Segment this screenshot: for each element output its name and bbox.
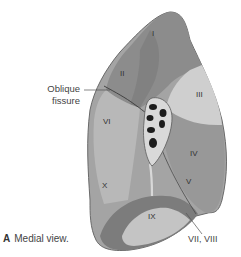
- hilum-vessel: [149, 138, 157, 148]
- hilum-vessel: [159, 120, 165, 128]
- segment-label-vi: VI: [103, 118, 111, 126]
- callout-line2: fissure: [40, 95, 80, 107]
- caption-letter: A: [3, 233, 10, 244]
- hilum-vessel: [147, 127, 155, 133]
- segment-label-iv: IV: [190, 150, 198, 158]
- hilum-vessel: [160, 109, 167, 117]
- segment-label-ii: II: [120, 70, 124, 78]
- segment-label-ix: IX: [148, 213, 156, 221]
- hilum-vessel: [147, 115, 154, 121]
- lung-medial-view-figure: I II III VI IV V X IX Oblique fissure VI…: [0, 0, 241, 257]
- lung-illustration: [0, 0, 241, 257]
- segment-label-x: X: [102, 182, 107, 190]
- segment-label-iii: III: [196, 91, 203, 99]
- hilum-vessel: [149, 104, 157, 110]
- callout-line1: Oblique: [40, 83, 80, 95]
- caption-text: Medial view.: [14, 233, 68, 244]
- segment-label-v: V: [186, 178, 191, 186]
- oblique-fissure-callout: Oblique fissure: [40, 83, 80, 107]
- segments-vii-viii-callout: VII, VIII: [188, 235, 218, 244]
- figure-caption: AMedial view.: [3, 233, 69, 244]
- segment-label-i: I: [152, 30, 154, 38]
